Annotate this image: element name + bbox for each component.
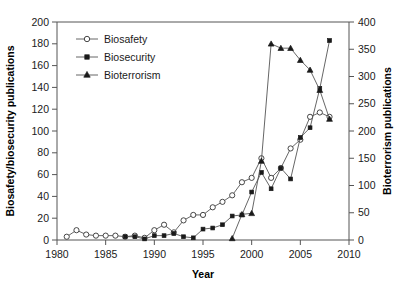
data-point-open-circle: [93, 233, 98, 238]
data-point-open-circle: [317, 110, 322, 115]
data-point-open-circle: [161, 222, 166, 227]
left-tick-label: 80: [37, 146, 49, 158]
right-tick-label: 250: [358, 97, 376, 109]
right-tick-label: 150: [358, 152, 376, 164]
data-point-open-circle: [220, 199, 225, 204]
left-tick-label: 160: [31, 59, 49, 71]
right-tick-label: 100: [358, 179, 376, 191]
legend-label-bioterrorism: Bioterrorism: [104, 69, 161, 81]
left-tick-label: 0: [43, 234, 49, 246]
series-bioterrorism: [229, 41, 332, 241]
data-point-open-circle: [191, 212, 196, 217]
filled-triangle-icon: [84, 71, 90, 77]
x-axis-ticks: 1980 1985 1990 1995 2000 2005 2010: [45, 240, 361, 260]
data-point-filled-square: [260, 171, 264, 175]
left-tick-label: 40: [37, 190, 49, 202]
x-tick-label: 1980: [45, 248, 69, 260]
x-tick-label: 1985: [94, 248, 118, 260]
left-tick-label: 200: [31, 16, 49, 28]
data-point-filled-square: [298, 136, 302, 140]
chart-legend: Biosafety Biosecurity Bioterrorism: [76, 33, 161, 81]
left-tick-label: 180: [31, 37, 49, 49]
right-tick-label: 50: [358, 206, 370, 218]
data-point-filled-square: [269, 187, 273, 191]
data-point-filled-square: [230, 214, 234, 218]
data-point-open-circle: [269, 175, 274, 180]
legend-label-biosecurity: Biosecurity: [104, 51, 156, 63]
data-point-open-circle: [230, 193, 235, 198]
left-tick-label: 20: [37, 212, 49, 224]
data-point-filled-square: [152, 234, 156, 238]
data-point-open-circle: [64, 234, 69, 239]
data-point-open-circle: [103, 233, 108, 238]
data-point-filled-square: [221, 223, 225, 227]
chart-figure: 0 20 40 60 80 100 120 140 160 180 200 0: [0, 0, 398, 287]
data-point-filled-square: [308, 126, 312, 130]
x-tick-label: 2000: [240, 248, 264, 260]
data-point-open-circle: [113, 233, 118, 238]
data-point-open-circle: [249, 175, 254, 180]
data-point-open-circle: [181, 218, 186, 223]
publications-line-chart: 0 20 40 60 80 100 120 140 160 180 200 0: [0, 0, 398, 287]
series-line: [232, 44, 329, 239]
data-point-open-circle: [239, 180, 244, 185]
legend-item-biosafety: Biosafety: [76, 33, 148, 45]
data-point-filled-square: [328, 39, 332, 43]
left-tick-label: 60: [37, 168, 49, 180]
data-point-filled-square: [211, 226, 215, 230]
data-point-filled-square: [182, 235, 186, 239]
data-point-open-circle: [210, 205, 215, 210]
legend-item-biosecurity: Biosecurity: [76, 51, 156, 63]
data-point-filled-triangle: [268, 41, 274, 46]
data-point-open-circle: [288, 146, 293, 151]
filled-square-icon: [85, 55, 89, 59]
open-circle-icon: [84, 36, 89, 41]
right-axis-ticks: 0 50 100 150 200 250 300 350 400: [349, 16, 376, 246]
legend-item-bioterrorism: Bioterrorism: [76, 69, 161, 81]
data-point-filled-triangle: [249, 210, 255, 215]
y-axis-title: Biosafety/biosecurity publications: [4, 45, 16, 216]
left-tick-label: 100: [31, 125, 49, 137]
right-tick-label: 200: [358, 125, 376, 137]
data-point-filled-square: [162, 234, 166, 238]
plot-frame: [57, 22, 349, 240]
legend-label-biosafety: Biosafety: [104, 33, 148, 45]
right-tick-label: 400: [358, 16, 376, 28]
data-point-open-circle: [152, 228, 157, 233]
data-point-open-circle: [200, 212, 205, 217]
x-tick-label: 2010: [337, 248, 361, 260]
data-point-filled-square: [133, 235, 137, 239]
y2-axis-title: Bioterrorism publications: [381, 67, 393, 195]
data-point-open-circle: [74, 228, 79, 233]
right-tick-label: 300: [358, 70, 376, 82]
data-point-open-circle: [84, 232, 89, 237]
x-tick-label: 1990: [143, 248, 167, 260]
series-line: [67, 112, 330, 237]
x-tick-label: 1995: [191, 248, 215, 260]
x-tick-label: 2005: [289, 248, 313, 260]
data-point-filled-square: [191, 236, 195, 240]
left-axis-ticks: 0 20 40 60 80 100 120 140 160 180 200: [31, 16, 57, 246]
data-point-filled-square: [250, 190, 254, 194]
data-point-filled-square: [201, 227, 205, 231]
left-tick-label: 120: [31, 103, 49, 115]
data-point-filled-square: [143, 237, 147, 241]
data-point-filled-triangle: [229, 235, 235, 240]
data-point-filled-square: [172, 232, 176, 236]
right-tick-label: 350: [358, 43, 376, 55]
left-tick-label: 140: [31, 81, 49, 93]
data-point-filled-square: [289, 177, 293, 181]
x-axis-title: Year: [192, 268, 214, 280]
data-point-filled-square: [123, 235, 127, 239]
right-tick-label: 0: [358, 234, 364, 246]
data-point-filled-square: [279, 166, 283, 170]
